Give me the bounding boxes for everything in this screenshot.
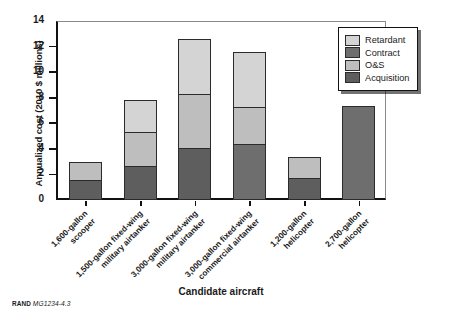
x-axis-category-label-line: scooper (57, 216, 98, 257)
bar-segment-o-s[interactable] (288, 157, 321, 179)
y-axis-tick-mark (49, 174, 56, 176)
y-axis-tick-label: 0 (38, 193, 44, 204)
y-axis-tick-label: 8 (38, 91, 44, 102)
bar-segment-o-s[interactable] (124, 132, 157, 167)
y-axis-tick-label: 4 (38, 142, 44, 153)
legend-swatch-icon (345, 72, 360, 83)
y-axis-tick-mark (49, 46, 56, 48)
x-axis-tick-mark (195, 201, 197, 206)
figure-source-note: RAND MG1234-4.3 (12, 300, 70, 307)
legend-item[interactable]: Acquisition (345, 72, 409, 83)
figure-container: Annualized cost (2010 $ millions) 024681… (0, 0, 451, 328)
x-axis-category-label: 2,700-gallonhelicopter (323, 209, 371, 257)
y-axis-tick-mark (49, 71, 56, 73)
bar-segment-retardant[interactable] (178, 39, 211, 94)
y-axis-tick-mark (49, 97, 56, 99)
y-axis-tick-label: 14 (33, 14, 44, 25)
bar-stack[interactable] (288, 157, 321, 200)
bar-stack[interactable] (69, 162, 102, 200)
x-axis-category-label: 3,000-gallon fixed-wingmilitary airtanke… (129, 209, 208, 288)
x-axis-category-label-line: 1,200-gallon (269, 209, 310, 250)
x-axis-category-label-line: 3,000-gallon fixed-wing (129, 209, 200, 280)
y-axis-tick-label: 2 (38, 167, 44, 178)
source-org: RAND (12, 300, 31, 307)
bar-stack[interactable] (124, 100, 157, 200)
x-axis-category-label-line: 1,600-gallon (50, 209, 91, 250)
x-axis-category-label-line: 1,500-gallon fixed-wing (74, 209, 145, 280)
bar-stack[interactable] (178, 39, 211, 200)
x-axis-tick-mark (359, 201, 361, 206)
bar-segment-acquisition[interactable] (178, 148, 211, 200)
bars-layer (58, 21, 386, 200)
x-axis-tick-mark (85, 201, 87, 206)
y-axis-tick-label: 12 (33, 40, 44, 51)
bar-segment-contract[interactable] (233, 144, 266, 200)
y-axis-tick-label: 10 (33, 65, 44, 76)
legend-swatch-icon (345, 35, 360, 46)
x-axis-category-label-line: helicopter (276, 216, 317, 257)
x-axis-tick-mark (304, 201, 306, 206)
x-axis-category-label: 3,000-gallon fixed-wingcommercial airtan… (184, 209, 263, 288)
x-axis-category-label: 1,600-gallonscooper (50, 209, 98, 257)
bar-segment-acquisition[interactable] (124, 166, 157, 200)
legend-swatch-icon (345, 60, 360, 71)
bar-segment-retardant[interactable] (233, 52, 266, 107)
y-axis-tick-label: 6 (38, 116, 44, 127)
x-axis-category-label-line: helicopter (331, 216, 372, 257)
x-axis-category-label: 1,200-gallonhelicopter (269, 209, 317, 257)
y-axis-tick-mark (49, 148, 56, 150)
bar-segment-o-s[interactable] (233, 107, 266, 143)
bar-segment-retardant[interactable] (124, 100, 157, 132)
legend-label: O&S (365, 60, 384, 70)
x-axis-title: Candidate aircraft (56, 286, 386, 297)
source-figure-id: MG1234-4.3 (33, 300, 71, 307)
bar-segment-o-s[interactable] (178, 94, 211, 148)
x-axis-category-label-line: military airtanker (136, 216, 207, 287)
legend-item[interactable]: Contract (345, 47, 409, 58)
x-axis-tick-mark (249, 201, 251, 206)
legend-item[interactable]: Retardant (345, 35, 409, 46)
x-axis-category-label-line: commercial airtanker (191, 216, 262, 287)
y-axis-tick-mark (49, 122, 56, 124)
bar-segment-o-s[interactable] (69, 162, 102, 179)
legend-label: Acquisition (365, 73, 409, 83)
bar-segment-contract[interactable] (342, 106, 375, 200)
legend-item[interactable]: O&S (345, 60, 409, 71)
bar-stack[interactable] (233, 52, 266, 200)
x-axis-category-label-line: military airtanker (82, 216, 153, 287)
bar-stack[interactable] (342, 106, 375, 200)
chart-legend: RetardantContractO&SAcquisition (338, 27, 418, 91)
x-axis-tick-mark (140, 201, 142, 206)
legend-label: Contract (365, 48, 400, 58)
legend-swatch-icon (345, 47, 360, 58)
legend-label: Retardant (365, 35, 405, 45)
x-axis-category-label: 1,500-gallon fixed-wingmilitary airtanke… (74, 209, 153, 288)
x-axis-category-label-line: 3,000-gallon fixed-wing (184, 209, 255, 280)
x-axis-category-label-line: 2,700-gallon (323, 209, 364, 250)
bar-segment-acquisition[interactable] (69, 180, 102, 200)
bar-segment-acquisition[interactable] (288, 178, 321, 200)
